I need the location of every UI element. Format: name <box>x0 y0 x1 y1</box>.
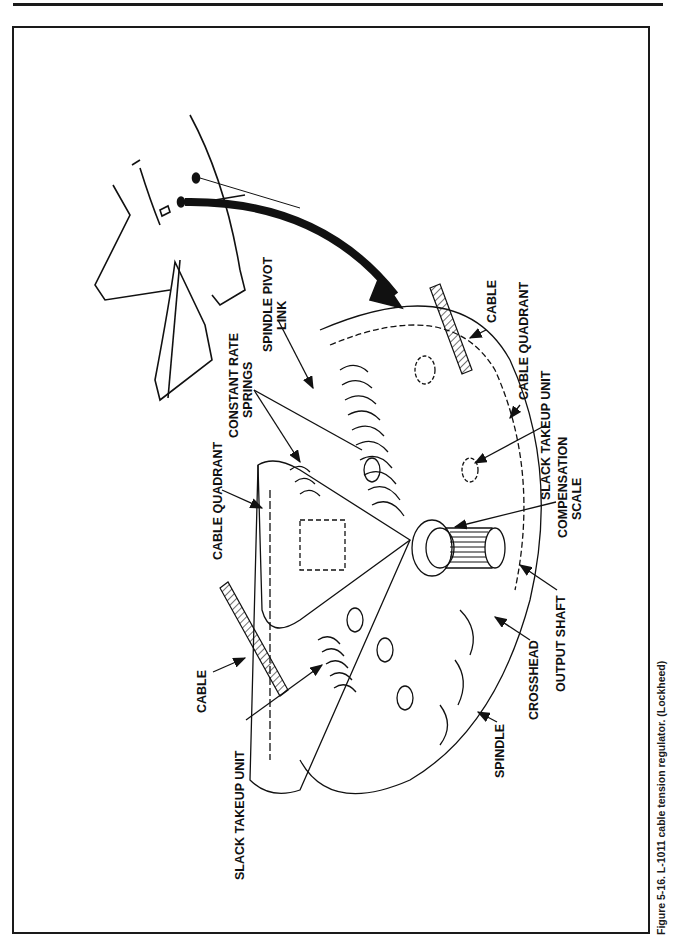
label-compensation-scale-line2: SCALE <box>570 478 584 520</box>
label-spindle-pivot-link-line1: SPINDLE PIVOT <box>261 256 275 352</box>
label-slack-takeup-unit-left: SLACK TAKEUP UNIT <box>233 750 247 880</box>
label-constant-rate-springs-line2: SPRINGS <box>241 362 255 418</box>
constant-rate-spring-icon <box>340 365 404 516</box>
label-spindle-pivot-link-line2: LINK <box>275 301 289 330</box>
figure-caption: Figure 5-16. L-1011 cable tension regula… <box>655 661 667 935</box>
cable-tension-regulator-illustration: SLACK TAKEUP UNIT CABLE CABLE QUADRANT C… <box>0 0 675 951</box>
label-constant-rate-springs-line1: CONSTANT RATE <box>227 333 241 438</box>
label-compensation-scale-line1: COMPENSATION <box>556 437 570 538</box>
label-cable-right: CABLE <box>485 280 499 323</box>
label-cable-quadrant-right: CABLE QUADRANT <box>517 282 531 400</box>
label-crosshead: CROSSHEAD <box>527 640 541 720</box>
label-cable-quadrant-left: CABLE QUADRANT <box>211 442 225 560</box>
aircraft-tail-icon <box>95 115 402 400</box>
label-spindle: SPINDLE <box>493 724 507 778</box>
label-slack-takeup-unit-right: SLACK TAKEUP UNIT <box>539 370 553 500</box>
slack-takeup-spring-icon <box>318 637 356 692</box>
constant-rate-spring-icon <box>290 466 320 496</box>
regulator-body <box>250 306 541 794</box>
label-cable-left: CABLE <box>195 670 209 713</box>
label-output-shaft: OUTPUT SHAFT <box>554 595 568 692</box>
